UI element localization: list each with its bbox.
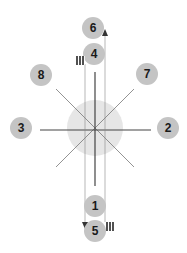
badge-7: 7 xyxy=(136,63,158,85)
badge-5: 5 xyxy=(84,220,106,242)
qr-code-icon xyxy=(106,222,115,231)
qr-code-icon xyxy=(76,56,85,65)
badge-1: 1 xyxy=(84,195,106,217)
badge-3: 3 xyxy=(10,117,32,139)
badge-2: 2 xyxy=(157,117,179,139)
badge-8: 8 xyxy=(30,64,52,86)
badge-4: 4 xyxy=(83,43,105,65)
badge-6: 6 xyxy=(82,17,104,39)
